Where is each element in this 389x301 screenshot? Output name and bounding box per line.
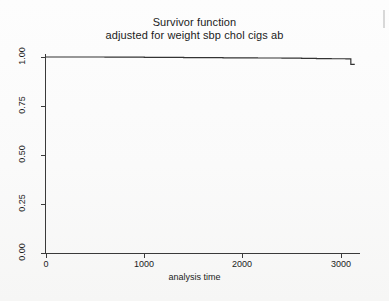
survivor-curve-svg — [0, 0, 389, 301]
figure-page: Survivor function adjusted for weight sb… — [0, 0, 389, 301]
survivor-curve-line — [46, 57, 355, 64]
